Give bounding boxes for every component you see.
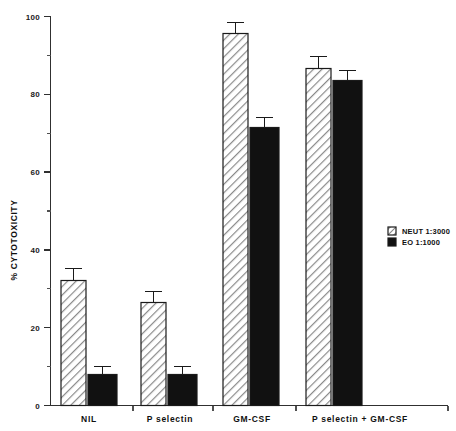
bar-nil-eo: [88, 375, 117, 406]
bar-nil-neut: [61, 281, 86, 406]
y-tick-label-0: 0: [35, 402, 40, 411]
y-tick-label-80: 80: [31, 90, 41, 99]
bar-pselectin-gmcsf-neut: [306, 69, 331, 406]
y-tick-label-20: 20: [31, 324, 41, 333]
chart-svg: 100 80 60 40 20 0 % CYTOTOXICITY: [0, 0, 456, 431]
legend-label-neut: NEUT 1:3000: [402, 227, 450, 236]
legend-label-eo: EO 1:1000: [402, 238, 440, 247]
y-axis-title: % CYTOTOXICITY: [9, 200, 19, 281]
legend-swatch-eo: [388, 238, 396, 246]
bar-pselectin-eo: [168, 375, 197, 406]
legend-swatch-neut: [388, 227, 396, 235]
y-tick-label-100: 100: [26, 13, 40, 22]
bar-gmcsf-eo: [250, 128, 279, 406]
x-label-p-selectin: P selectin: [147, 414, 194, 424]
x-label-nil: NIL: [81, 414, 97, 424]
y-tick-label-40: 40: [31, 246, 41, 255]
x-label-pselectin-gmcsf: P selectin + GM-CSF: [312, 414, 408, 424]
bar-gmcsf-neut: [223, 34, 248, 406]
bar-pselectin-gmcsf-eo: [333, 81, 362, 406]
y-tick-label-60: 60: [31, 168, 41, 177]
x-label-gmcsf: GM-CSF: [233, 414, 271, 424]
bar-pselectin-neut: [141, 303, 166, 406]
bar-chart-figure: 100 80 60 40 20 0 % CYTOTOXICITY: [0, 0, 456, 431]
